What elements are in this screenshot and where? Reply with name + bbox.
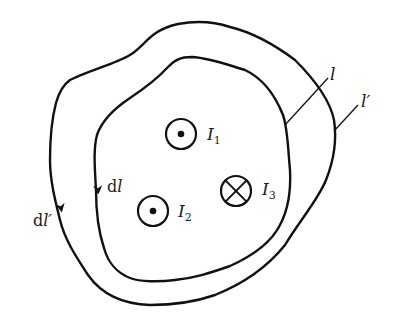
diagram-svg: I1 I2 I3 l l′ dl dl′ (0, 0, 401, 330)
current-i3-cross-icon (221, 176, 251, 206)
inner-loop-leader-line (285, 78, 328, 125)
current-i1-dot-icon (166, 119, 196, 149)
current-i2-label: I2 (177, 201, 192, 224)
inner-loop-path (95, 57, 291, 281)
outer-element-label: dl′ (33, 211, 52, 230)
current-i1-label: I1 (206, 124, 221, 147)
outer-loop-label: l′ (361, 91, 370, 111)
inner-element-label: dl (107, 177, 122, 196)
inner-loop-label: l (330, 64, 335, 84)
outer-loop-leader-line (334, 105, 358, 131)
current-i2-dot-icon (138, 196, 168, 226)
current-i3-label: I3 (261, 179, 276, 202)
diagram-canvas: I1 I2 I3 l l′ dl dl′ (0, 0, 401, 330)
outer-loop-path (50, 22, 335, 305)
